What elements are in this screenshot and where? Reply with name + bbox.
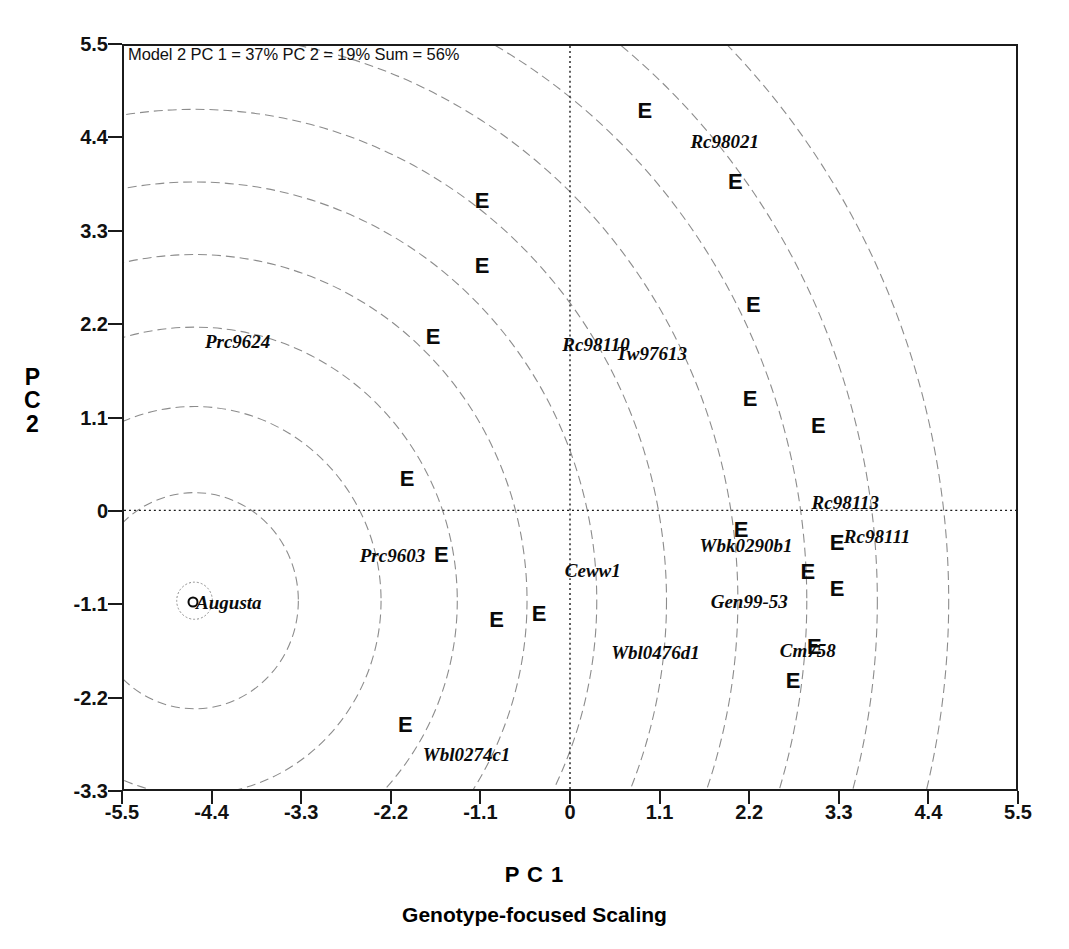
y-tick-label: 1.1	[80, 406, 108, 429]
environment-marker: E	[830, 532, 845, 554]
x-tick-label: -4.4	[194, 801, 228, 824]
environment-marker: E	[746, 294, 761, 316]
environment-marker: E	[811, 415, 826, 437]
x-tick-label: -2.2	[374, 801, 408, 824]
contour-ring	[124, 182, 597, 789]
contour-ring	[124, 255, 527, 789]
y-tick-mark	[108, 417, 122, 419]
contour-ring	[124, 46, 807, 789]
environment-marker: E	[638, 100, 653, 122]
y-tick-label: -3.3	[74, 780, 108, 803]
y-tick-mark	[108, 43, 122, 45]
x-tick-label: 1.1	[646, 801, 674, 824]
genotype-label: Cm758	[780, 641, 836, 660]
y-tick-mark	[108, 697, 122, 699]
y-axis-title-line-2: C	[24, 389, 41, 412]
figure-caption: Genotype-focused Scaling	[0, 903, 1069, 927]
x-tick-label: -1.1	[463, 801, 497, 824]
genotype-label: Ceww1	[565, 561, 621, 580]
y-tick-mark	[108, 790, 122, 792]
x-tick-label: -5.5	[105, 801, 139, 824]
x-tick-mark	[300, 791, 302, 804]
x-tick-mark	[211, 791, 213, 804]
genotype-label: Wbk0290b1	[699, 535, 792, 554]
environment-marker: E	[728, 171, 743, 193]
environment-marker: E	[475, 255, 490, 277]
environment-marker: E	[786, 670, 801, 692]
environment-marker: E	[426, 326, 441, 348]
x-tick-mark	[121, 791, 123, 804]
x-tick-label: 5.5	[1004, 801, 1032, 824]
contour-ring	[124, 46, 738, 789]
genotype-label: Wbl0274c1	[423, 744, 511, 763]
x-tick-label: 0	[564, 801, 575, 824]
x-axis-title: P C 1	[0, 862, 1069, 888]
genotype-label: Augusta	[196, 592, 261, 611]
environment-marker: E	[400, 468, 415, 490]
y-tick-mark	[108, 136, 122, 138]
genotype-label: Rc98111	[844, 527, 911, 546]
y-tick-label: 5.5	[80, 33, 108, 56]
environment-marker: E	[489, 609, 504, 631]
y-axis-title-line-3: 2	[24, 413, 41, 436]
x-tick-label: 2.2	[735, 801, 763, 824]
y-tick-mark	[108, 230, 122, 232]
x-tick-mark	[659, 791, 661, 804]
y-tick-mark	[108, 510, 122, 512]
x-tick-label: 3.3	[825, 801, 853, 824]
x-tick-label: -3.3	[284, 801, 318, 824]
biplot-figure: 5.54.43.32.21.10-1.1-2.2-3.3 P C 2 Model…	[0, 0, 1069, 949]
y-tick-label: -1.1	[74, 593, 108, 616]
y-tick-label: -2.2	[74, 686, 108, 709]
plot-canvas	[124, 46, 1016, 789]
genotype-label: Wbl0476d1	[611, 642, 700, 661]
x-tick-label: 4.4	[914, 801, 942, 824]
y-tick-label: 4.4	[80, 126, 108, 149]
x-tick-mark	[569, 791, 571, 804]
x-tick-mark	[748, 791, 750, 804]
environment-marker: E	[434, 544, 449, 566]
x-tick-mark	[390, 791, 392, 804]
contour-ring	[124, 109, 666, 789]
y-tick-mark	[108, 603, 122, 605]
x-tick-mark	[479, 791, 481, 804]
environment-marker: E	[475, 190, 490, 212]
y-axis-title-line-1: P	[24, 366, 41, 389]
environment-marker: E	[398, 714, 413, 736]
y-axis-title: P C 2	[24, 366, 41, 436]
y-tick-label: 3.3	[80, 219, 108, 242]
environment-marker: E	[532, 603, 547, 625]
genotype-label: Rc98021	[690, 131, 759, 150]
environment-marker: E	[743, 388, 758, 410]
x-tick-mark	[1017, 791, 1019, 804]
y-tick-label: 2.2	[80, 313, 108, 336]
genotype-label: Gen99-53	[711, 591, 788, 610]
y-axis-ticks: 5.54.43.32.21.10-1.1-2.2-3.3	[0, 0, 108, 949]
environment-marker: E	[801, 561, 816, 583]
plot-area	[122, 44, 1018, 791]
genotype-label: Tw97613	[616, 343, 687, 362]
x-tick-mark	[927, 791, 929, 804]
contour-ring	[124, 46, 877, 789]
y-tick-label: 0	[97, 499, 108, 522]
genotype-label: Prc9624	[205, 332, 270, 351]
plot-title: Model 2 PC 1 = 37% PC 2 = 19% Sum = 56%	[128, 45, 459, 64]
genotype-label: Prc9603	[360, 546, 425, 565]
y-tick-mark	[108, 323, 122, 325]
genotype-label: Rc98113	[812, 493, 880, 512]
x-tick-mark	[838, 791, 840, 804]
environment-marker: E	[830, 578, 845, 600]
